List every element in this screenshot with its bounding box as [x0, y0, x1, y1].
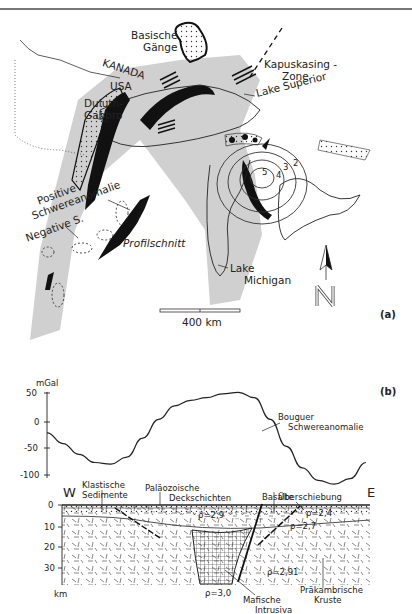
lake-huron-outline — [278, 179, 360, 240]
label-ueberschiebung: Überschiebung — [278, 492, 342, 502]
label-line: Intrusiva — [243, 605, 292, 614]
label-line: Gänge — [131, 41, 177, 53]
label-duluth-gabbro: Duluth- Gabbro — [84, 97, 123, 121]
density-basalt: ρ=2,9 — [198, 510, 224, 520]
basische-gaenge-outcrop — [175, 23, 206, 62]
density-sediment: ρ=2,4 — [306, 508, 332, 518]
depth-unit: km — [54, 589, 67, 599]
panel-b-tag: (b) — [380, 386, 396, 398]
depth-tick-20: 20 — [44, 542, 55, 552]
map-figure — [0, 0, 412, 614]
label-praekambrische-kruste: Präkambrische Kruste — [300, 585, 363, 605]
scale-bar-label: 400 km — [182, 316, 222, 328]
label-profilschnitt: Profilschnitt — [123, 237, 185, 249]
label-line: Michigan — [230, 274, 291, 286]
depth-axis — [58, 505, 62, 585]
bouguer-curve — [47, 392, 366, 484]
contour-label-2: 2 — [293, 158, 298, 168]
density-intrusion: ρ=3,0 — [205, 588, 231, 598]
label-lake-michigan: Lake Michigan — [230, 262, 291, 286]
ytick-minus-100: -100 — [20, 470, 39, 480]
label-line: Basische — [131, 29, 177, 41]
label-usa: USA — [110, 80, 132, 92]
label-klastische-sedimente: Klastische Sedimente — [82, 480, 128, 500]
label-line: Deckschichten — [145, 493, 231, 503]
label-west: W — [63, 487, 76, 499]
contour-label-5: 5 — [262, 167, 267, 177]
label-line: Bouguer — [278, 412, 363, 422]
label-line: Sedimente — [82, 490, 128, 500]
sedimente-far-east — [318, 140, 370, 160]
depth-tick-30: 30 — [44, 563, 55, 573]
label-line: Mafische — [243, 595, 292, 605]
positive-anomaly-southwest — [98, 195, 150, 260]
label-line: Kapuskasing - — [264, 58, 337, 70]
label-line: Überschiebung — [278, 492, 342, 502]
y-axis-unit: mGal — [36, 378, 58, 388]
label-line: Paläozoische — [145, 483, 231, 493]
contour-label-3: 3 — [283, 162, 288, 172]
depth-tick-10: 10 — [44, 522, 55, 532]
y-axis — [44, 392, 50, 478]
north-arrow-icon — [317, 245, 333, 306]
label-line: Kruste — [300, 595, 363, 605]
ytick-50: 50 — [26, 388, 37, 398]
depth-tick-0: 0 — [48, 500, 53, 510]
label-line: Gabbro — [84, 109, 123, 121]
label-line: Schwereanomalie — [278, 422, 363, 432]
label-east: E — [367, 487, 375, 499]
density-upper-crust: ρ=2,7 — [290, 521, 316, 531]
ytick-0: 0 — [34, 417, 39, 427]
label-line: Duluth- — [84, 97, 123, 109]
label-line: Klastische — [82, 480, 128, 490]
label-line: Lake — [230, 262, 291, 274]
density-crust: ρ=2,91 — [267, 567, 298, 577]
label-line: Präkambrische — [300, 585, 363, 595]
label-palaeozoische-deckschichten: Paläozoische Deckschichten — [145, 483, 231, 503]
panel-a-tag: (a) — [380, 309, 396, 321]
label-basische-gaenge: Basische Gänge — [131, 29, 177, 53]
label-bouguer-schwereanomalie: Bouguer Schwereanomalie — [278, 412, 363, 432]
label-mafische-intrusiva: Mafische Intrusiva — [243, 595, 292, 614]
ytick-minus-50: -50 — [24, 443, 38, 453]
scale-bar — [160, 309, 240, 312]
contour-label-4: 4 — [276, 170, 281, 180]
